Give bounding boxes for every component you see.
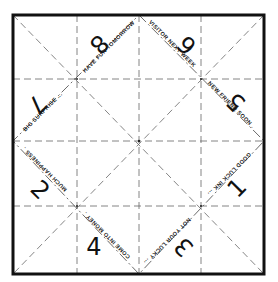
- fortune-have-fun: HAVE FUN TOMORROW: [81, 19, 136, 74]
- fold-lines: [13, 15, 264, 274]
- number-4: 4: [86, 233, 101, 261]
- fortune-new-friend: NEW FRIEND SOON .: [207, 80, 256, 129]
- fortune-teller-sheet: 8 6 7 5 2 1 4 3 HAVE FUN TOMORROW VISITO…: [0, 0, 278, 282]
- fold-diagonal-anti: [13, 15, 264, 274]
